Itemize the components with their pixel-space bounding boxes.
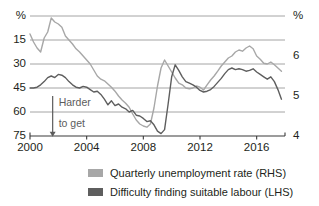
legend-swatch-unemployment bbox=[88, 169, 103, 177]
x-axis-tick-2004: 2004 bbox=[67, 142, 107, 154]
x-axis-tick-2000: 2000 bbox=[10, 142, 50, 154]
x-axis-tick-2016: 2016 bbox=[237, 142, 277, 154]
left-axis-tick-75: 75 bbox=[0, 130, 26, 142]
left-axis-tick-percent: % bbox=[0, 10, 26, 22]
right-axis-tick-6: 6 bbox=[293, 50, 319, 62]
legend-item-difficulty: Difficulty finding suitable labour (LHS) bbox=[0, 182, 319, 201]
right-axis-tick-5: 5 bbox=[293, 90, 319, 102]
chart-legend: Quarterly unemployment rate (RHS) Diffic… bbox=[0, 163, 319, 201]
left-axis-tick-30: 30 bbox=[0, 58, 26, 70]
right-axis-tick-percent: % bbox=[293, 10, 319, 22]
harder-to-get-arrow-icon bbox=[50, 96, 56, 137]
x-axis-tick-2012: 2012 bbox=[180, 142, 220, 154]
legend-label-unemployment: Quarterly unemployment rate (RHS) bbox=[110, 167, 286, 179]
axis-lines bbox=[30, 133, 285, 137]
legend-swatch-difficulty bbox=[88, 188, 103, 196]
left-axis-tick-45: 45 bbox=[0, 82, 26, 94]
x-axis-tick-2008: 2008 bbox=[123, 142, 163, 154]
legend-item-unemployment: Quarterly unemployment rate (RHS) bbox=[0, 163, 319, 182]
annotation-harder: Harder bbox=[59, 97, 91, 108]
left-axis-tick-15: 15 bbox=[0, 34, 26, 46]
annotation-to-get: to get bbox=[59, 118, 85, 129]
right-axis-tick-4: 4 bbox=[293, 130, 319, 142]
legend-label-difficulty: Difficulty finding suitable labour (LHS) bbox=[110, 186, 293, 198]
left-axis-tick-60: 60 bbox=[0, 106, 26, 118]
chart-container: %1530456075 %654 20002004200820122016 Ha… bbox=[0, 0, 319, 206]
